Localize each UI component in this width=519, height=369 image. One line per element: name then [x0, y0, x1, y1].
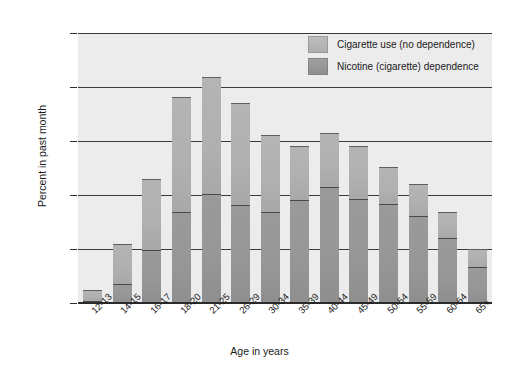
stacked-bar-chart: 0.010.020.030.040.050.0 Percent in past …	[0, 0, 519, 369]
x-axis-title: Age in years	[0, 345, 519, 357]
legend-item: Nicotine (cigarette) dependence	[308, 58, 479, 75]
bar-segment-no-dependence	[142, 179, 161, 250]
y-axis-title: Percent in past month	[36, 36, 48, 276]
bar-segment-no-dependence	[202, 77, 221, 194]
bar-group	[320, 133, 339, 303]
y-tick-mark	[70, 303, 77, 304]
bar-segment-no-dependence	[172, 97, 191, 213]
y-tick-mark	[70, 87, 77, 88]
bar-segment-no-dependence	[468, 249, 487, 267]
bar-group	[172, 97, 191, 303]
bar-group	[202, 77, 221, 303]
bar-segment-no-dependence	[438, 212, 457, 238]
legend-label: Nicotine (cigarette) dependence	[337, 61, 479, 72]
bar-segment-no-dependence	[409, 184, 428, 216]
bar-segment-no-dependence	[379, 167, 398, 204]
bar-segment-no-dependence	[349, 146, 368, 199]
bar-segment-no-dependence	[320, 133, 339, 187]
y-tick-mark	[70, 195, 77, 196]
bar-segment-no-dependence	[290, 146, 309, 199]
bar-segment-no-dependence	[113, 244, 132, 284]
bar-segment-no-dependence	[231, 103, 250, 206]
y-tick-mark	[70, 33, 77, 34]
bar-segment-no-dependence	[261, 135, 280, 213]
legend-item: Cigarette use (no dependence)	[308, 36, 479, 53]
bar-group	[231, 103, 250, 303]
bar-group	[261, 135, 280, 303]
legend-swatch-dependence	[308, 58, 328, 75]
legend: Cigarette use (no dependence) Nicotine (…	[308, 36, 479, 80]
y-tick-mark	[70, 141, 77, 142]
legend-swatch-no-dependence	[308, 36, 328, 53]
legend-label: Cigarette use (no dependence)	[337, 39, 475, 50]
y-tick-mark	[70, 249, 77, 250]
